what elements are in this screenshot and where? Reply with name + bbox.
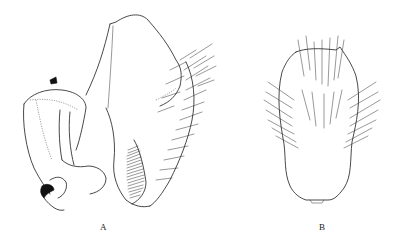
scientific-figure: A B: [0, 0, 400, 234]
panel-label-b: B: [319, 222, 325, 232]
panel-a-drawing: [23, 15, 216, 210]
panel-b-drawing: [264, 36, 380, 203]
figure-drawing: [0, 0, 400, 234]
panel-label-a: A: [100, 222, 107, 232]
